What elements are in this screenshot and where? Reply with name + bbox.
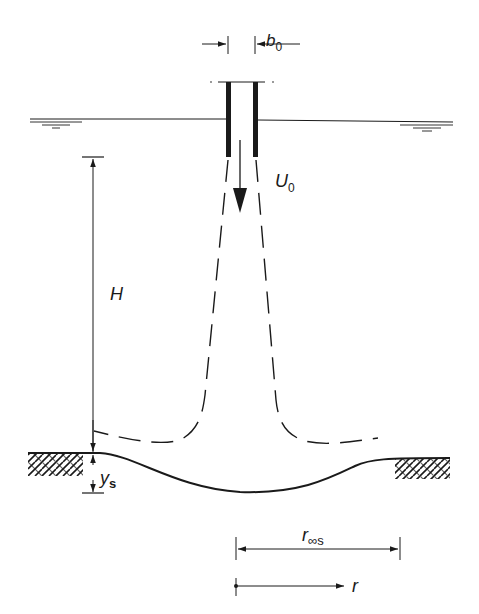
water-level-symbol-right <box>400 125 453 131</box>
label-U0: U0 <box>275 171 295 195</box>
label-b0: b0 <box>266 31 282 54</box>
original-bed-hatched <box>28 453 450 479</box>
dimension-b0: b0 <box>202 31 300 54</box>
dimension-r-inf-s: r∞s <box>236 525 400 560</box>
jet-velocity-arrow: U0 <box>233 140 295 213</box>
label-r-inf-s: r∞s <box>302 525 324 548</box>
axis-r: r <box>234 576 359 596</box>
dimension-ys: ys <box>82 455 116 493</box>
water-level-symbol-left <box>30 122 82 128</box>
jet-boundary-dashed <box>94 160 378 443</box>
label-ys: ys <box>98 468 116 491</box>
label-H: H <box>110 284 124 304</box>
dimension-H: H <box>82 157 124 452</box>
water-surface <box>30 119 453 131</box>
label-r: r <box>352 576 359 596</box>
scour-diagram: b0 U0 H <box>0 0 479 614</box>
scour-profile <box>28 453 450 492</box>
